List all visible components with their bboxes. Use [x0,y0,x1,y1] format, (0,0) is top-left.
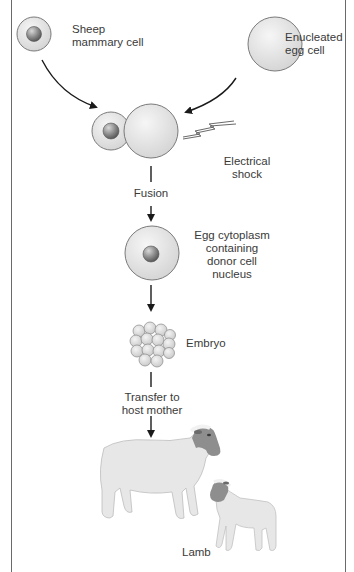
cloning-diagram [0,0,354,572]
embryo-icon [130,322,176,367]
label-line: mammary cell [72,36,144,49]
lamb-icon [210,480,276,551]
label-sheep-mammary-cell: Sheep mammary cell [72,23,144,49]
label-line: donor cell [188,255,276,268]
label-egg-cytoplasm: Egg cytoplasm containing donor cell nucl… [188,229,276,281]
host-mother-sheep-icon [100,426,220,519]
label-electrical-shock: Electrical shock [222,155,272,181]
label-line: Egg cytoplasm [188,229,276,242]
fused-cell-icon [125,226,179,280]
arrow-donor-to-fusion [42,60,96,107]
label-embryo: Embryo [186,337,226,350]
label-transfer-to-host-mother: Transfer to host mother [116,391,188,417]
label-line: egg cell [285,44,343,57]
label-line: shock [222,168,272,181]
label-fusion: Fusion [126,187,176,200]
mammary-cell-icon [17,17,51,51]
label-line: Sheep [72,23,144,36]
lightning-bolt-icon [183,121,236,139]
label-line: Electrical [222,155,272,168]
label-line: Enucleated [285,31,343,44]
arrow-egg-to-fusion [186,78,236,112]
label-lamb: Lamb [182,546,211,559]
fusing-cells-icon [92,104,178,158]
label-line: nucleus [188,268,276,281]
label-line: Transfer to [116,391,188,404]
label-enucleated-egg-cell: Enucleated egg cell [285,31,343,57]
label-line: containing [188,242,276,255]
label-line: host mother [116,404,188,417]
